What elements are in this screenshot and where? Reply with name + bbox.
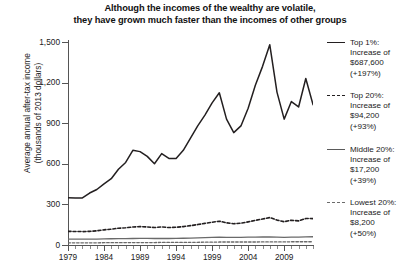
x-axis-tick-label: 1979 [48, 252, 88, 262]
x-axis-tick-minor [154, 246, 155, 249]
legend-label-line: (+50%) [350, 229, 417, 239]
x-axis-tick-label: 1994 [156, 252, 196, 262]
x-axis-tick-minor [205, 246, 206, 249]
x-axis-tick-minor [270, 246, 271, 249]
legend-label-line: $17,200 [350, 165, 417, 175]
x-axis-tick-minor [234, 246, 235, 249]
plot-area [68, 42, 313, 245]
x-axis-tick-minor [90, 246, 91, 249]
chart-title: Although the incomes of the wealthy are … [40, 2, 380, 26]
legend-label-line: Increase of [350, 208, 417, 218]
legend-label-line: Increase of [350, 155, 417, 165]
x-axis-tick-minor [169, 246, 170, 249]
y-axis-title: Average annual after-tax income (thousan… [22, 0, 48, 228]
series-line-middle-20 [68, 237, 313, 239]
x-axis-tick-label: 1989 [120, 252, 160, 262]
x-axis-tick-label: 2009 [264, 252, 304, 262]
x-axis-tick-minor [191, 246, 192, 249]
x-axis-tick-major [284, 246, 285, 251]
chart-figure: Although the incomes of the wealthy are … [0, 0, 417, 274]
legend-label-line: (+93%) [350, 122, 417, 132]
x-axis-tick-minor [118, 246, 119, 249]
legend-label: Top 1%:Increase of$687,600(+197%) [350, 38, 417, 79]
x-axis-tick-major [248, 246, 249, 251]
legend-label-line: Middle 20%: [350, 145, 417, 155]
x-axis-tick-minor [133, 246, 134, 249]
x-axis-tick-minor [111, 246, 112, 249]
series-line-top-20 [68, 218, 313, 232]
legend-line-swatch [327, 42, 345, 43]
y-axis-tick-label: 1,500 [18, 37, 60, 47]
x-axis-tick-minor [263, 246, 264, 249]
legend-label: Lowest 20%:Increase of$8,200(+50%) [350, 198, 417, 239]
x-axis-tick-minor [162, 246, 163, 249]
x-axis-tick-minor [147, 246, 148, 249]
y-axis-tick-label: 900 [18, 118, 60, 128]
y-axis-tick-label: 1,200 [18, 77, 60, 87]
x-axis-tick-minor [82, 246, 83, 249]
x-axis-tick-minor [306, 246, 307, 249]
legend-label-line: (+39%) [350, 176, 417, 186]
x-axis-tick-minor [313, 246, 314, 249]
legend-label-line: $687,600 [350, 58, 417, 68]
legend-label-line: Increase of [350, 101, 417, 111]
y-axis-tick-label: 300 [18, 199, 60, 209]
x-axis-tick-label: 1984 [84, 252, 124, 262]
x-axis-tick-minor [97, 246, 98, 249]
legend-label-line: Top 20%: [350, 91, 417, 101]
legend-label: Top 20%:Increase of$94,200(+93%) [350, 91, 417, 132]
y-axis-title-line-2: (thousands of 2013 dollars) [33, 0, 44, 228]
legend-label-line: Top 1%: [350, 38, 417, 48]
y-axis-tick-label: 0 [18, 240, 60, 250]
x-axis-tick-minor [299, 246, 300, 249]
x-axis-tick-minor [255, 246, 256, 249]
legend-label-line: (+197%) [350, 69, 417, 79]
legend-label-line: Lowest 20%: [350, 198, 417, 208]
legend-label-line: Increase of [350, 48, 417, 58]
y-axis-title-line-1: Average annual after-tax income [22, 0, 33, 228]
legend-line-swatch [327, 202, 345, 203]
x-axis-tick-major [68, 246, 69, 251]
x-axis-tick-major [176, 246, 177, 251]
legend-line-swatch [327, 95, 345, 96]
x-axis-tick-label: 1999 [192, 252, 232, 262]
x-axis-tick-minor [277, 246, 278, 249]
x-axis-tick-minor [126, 246, 127, 249]
x-axis-tick-major [104, 246, 105, 251]
legend-line-swatch [327, 149, 345, 150]
series-line-lowest-20 [68, 242, 313, 243]
x-axis-tick-major [140, 246, 141, 251]
legend-label-line: $94,200 [350, 111, 417, 121]
x-axis-tick-minor [183, 246, 184, 249]
x-axis-tick-minor [219, 246, 220, 249]
series-line-top-1 [68, 45, 313, 198]
chart-title-line-2: they have grown much faster than the inc… [40, 14, 380, 26]
x-axis-tick-minor [291, 246, 292, 249]
legend-label-line: $8,200 [350, 218, 417, 228]
x-axis-tick-minor [75, 246, 76, 249]
y-axis-tick-label: 600 [18, 158, 60, 168]
chart-title-line-1: Although the incomes of the wealthy are … [40, 2, 380, 14]
x-axis-tick-minor [198, 246, 199, 249]
x-axis-tick-label: 2004 [228, 252, 268, 262]
x-axis-tick-minor [227, 246, 228, 249]
x-axis-tick-major [212, 246, 213, 251]
legend-label: Middle 20%:Increase of$17,200(+39%) [350, 145, 417, 186]
x-axis-tick-minor [241, 246, 242, 249]
